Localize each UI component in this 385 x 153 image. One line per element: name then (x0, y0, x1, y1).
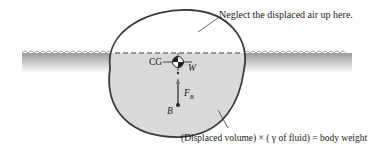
top-note-label: Neglect the displaced air up here. (219, 10, 353, 20)
buoyant-force-subscript: B (190, 93, 194, 100)
center-of-buoyancy-dot (176, 103, 180, 107)
center-of-buoyancy-label: B (167, 107, 173, 117)
buoyancy-diagram (0, 0, 385, 153)
bottom-note-label: (Displaced volume) × ( γ of fluid) = bod… (181, 134, 367, 144)
buoyant-force-label: FB (184, 89, 194, 100)
weight-label: W (188, 64, 196, 74)
weight-arrow-tip (177, 72, 179, 74)
cg-label: CG (149, 58, 162, 68)
